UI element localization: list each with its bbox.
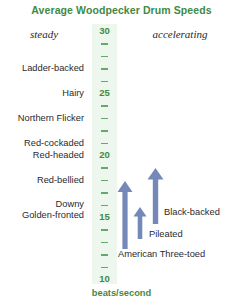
species-label-red-bellied: Red-bellied bbox=[0, 175, 88, 186]
species-label-american-three-toed: American Three-toed bbox=[118, 249, 205, 260]
axis-tick-label-15: 15 bbox=[92, 212, 117, 222]
axis-tick-14 bbox=[101, 229, 108, 231]
axis-tick-17 bbox=[101, 192, 108, 194]
axis-tick-28 bbox=[101, 56, 108, 58]
axis-tick-23 bbox=[101, 118, 108, 120]
species-label-ladder-backed: Ladder-backed bbox=[0, 63, 88, 74]
axis-tick-22 bbox=[101, 130, 108, 132]
axis-tick-12 bbox=[101, 254, 108, 256]
axis-tick-27 bbox=[101, 68, 108, 70]
axis-tick-16 bbox=[101, 205, 108, 207]
species-label-golden-fronted: Golden-fronted bbox=[0, 210, 88, 221]
arrow-pileated bbox=[133, 207, 147, 239]
species-label-downy: Downy bbox=[0, 199, 88, 210]
axis-tick-26 bbox=[101, 81, 108, 83]
arrow-black-backed bbox=[147, 168, 164, 224]
page-title: Average Woodpecker Drum Speeds bbox=[0, 4, 243, 16]
column-header-steady: steady bbox=[0, 28, 88, 40]
axis-title: beats/second bbox=[0, 288, 243, 298]
species-label-red-headed: Red-headed bbox=[0, 150, 88, 161]
axis-tick-24 bbox=[101, 105, 108, 107]
axis-tick-label-30: 30 bbox=[92, 26, 117, 36]
axis-tick-label-10: 10 bbox=[92, 274, 117, 284]
species-label-hairy: Hairy bbox=[0, 88, 88, 99]
woodpecker-drum-speed-chart: Average Woodpecker Drum Speeds steady ac… bbox=[0, 0, 243, 308]
axis-tick-11 bbox=[101, 267, 108, 269]
species-label-black-backed: Black-backed bbox=[164, 207, 220, 218]
column-header-accelerating: accelerating bbox=[120, 28, 240, 40]
species-label-pileated: Pileated bbox=[149, 229, 183, 240]
axis-tick-13 bbox=[101, 242, 108, 244]
species-label-northern-flicker: Northern Flicker bbox=[0, 113, 88, 124]
axis-tick-29 bbox=[101, 43, 108, 45]
species-label-red-cockaded: Red-cockaded bbox=[0, 138, 88, 149]
axis-tick-19 bbox=[101, 167, 108, 169]
axis-tick-label-25: 25 bbox=[92, 88, 117, 98]
axis-tick-18 bbox=[101, 180, 108, 182]
axis-tick-21 bbox=[101, 143, 108, 145]
axis-tick-label-20: 20 bbox=[92, 150, 117, 160]
arrow-american-three-toed bbox=[117, 181, 133, 249]
